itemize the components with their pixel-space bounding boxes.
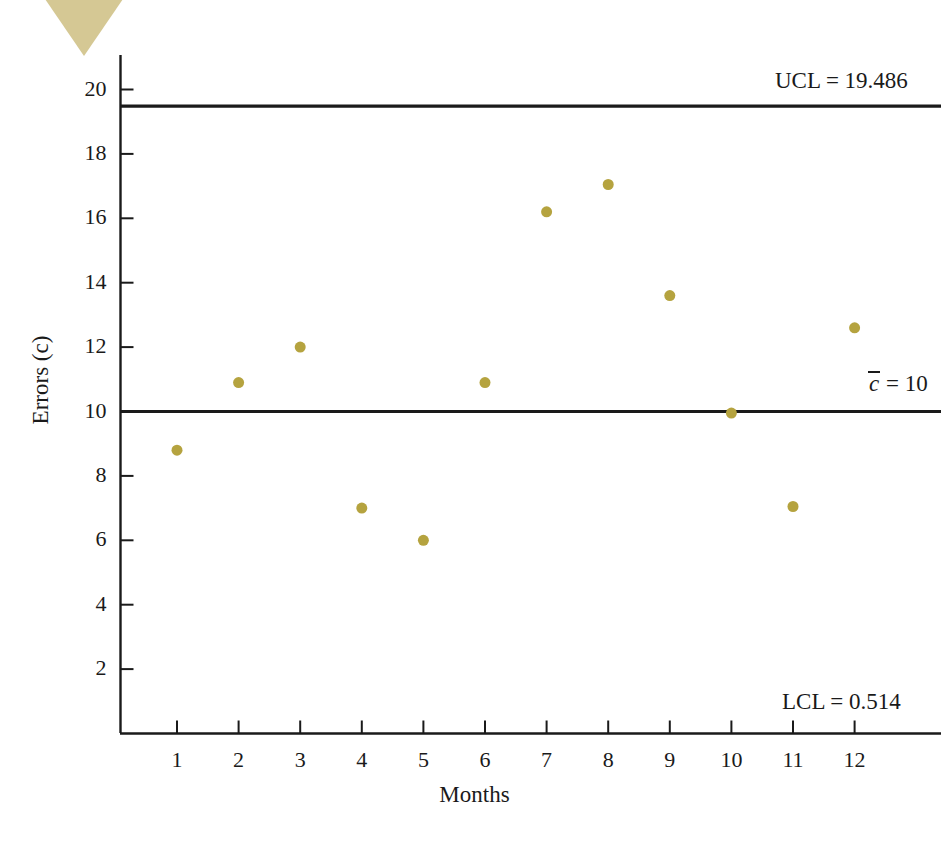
y-tick-label: 18 xyxy=(63,140,107,166)
data-point-marker xyxy=(603,179,614,190)
y-axis-label-symbol: c xyxy=(28,343,53,353)
x-tick-label: 10 xyxy=(709,747,753,773)
control-limit-lines xyxy=(121,106,942,411)
center-line-symbol: c xyxy=(868,371,880,397)
x-axis-label: Months xyxy=(0,782,949,808)
x-tick-marks xyxy=(177,721,855,734)
y-tick-label: 4 xyxy=(63,591,107,617)
ucl-annotation: UCL = 19.486 xyxy=(775,68,908,94)
x-tick-label: 6 xyxy=(463,747,507,773)
lcl-annotation: LCL = 0.514 xyxy=(782,689,901,715)
x-tick-label: 9 xyxy=(648,747,692,773)
x-tick-label: 12 xyxy=(833,747,877,773)
data-point-marker xyxy=(295,342,306,353)
control-chart-plot xyxy=(0,0,949,850)
y-tick-marks xyxy=(121,90,134,670)
y-axis-label: Errors (c) xyxy=(28,310,54,450)
data-point-marker xyxy=(788,501,799,512)
x-tick-label: 8 xyxy=(586,747,630,773)
x-tick-label: 11 xyxy=(771,747,815,773)
data-point-marker xyxy=(418,535,429,546)
data-point-marker xyxy=(726,408,737,419)
y-tick-label: 12 xyxy=(63,333,107,359)
data-point-marker xyxy=(356,503,367,514)
x-tick-label: 2 xyxy=(217,747,261,773)
x-tick-label: 7 xyxy=(525,747,569,773)
center-line-annotation: c = 10 xyxy=(868,371,928,397)
x-tick-label: 3 xyxy=(278,747,322,773)
y-tick-label: 2 xyxy=(63,655,107,681)
x-tick-label: 1 xyxy=(155,747,199,773)
data-point-marker xyxy=(233,377,244,388)
y-axis-label-text: Errors (c) xyxy=(28,336,53,425)
y-tick-label: 10 xyxy=(63,398,107,424)
data-point-markers xyxy=(172,179,861,546)
chart-page: 2468101214161820 123456789101112 Errors … xyxy=(0,0,949,850)
y-tick-label: 6 xyxy=(63,526,107,552)
y-tick-label: 8 xyxy=(63,462,107,488)
data-point-marker xyxy=(480,377,491,388)
data-point-marker xyxy=(849,322,860,333)
x-tick-label: 5 xyxy=(401,747,445,773)
x-axis-label-text: Months xyxy=(439,782,509,807)
data-point-marker xyxy=(541,206,552,217)
y-tick-label: 20 xyxy=(63,76,107,102)
data-point-marker xyxy=(172,445,183,456)
y-tick-label: 16 xyxy=(63,204,107,230)
y-tick-label: 14 xyxy=(63,269,107,295)
x-tick-label: 4 xyxy=(340,747,384,773)
data-point-marker xyxy=(664,290,675,301)
